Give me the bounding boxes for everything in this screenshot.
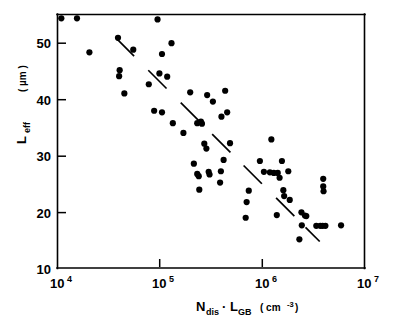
data-point xyxy=(146,81,152,87)
y-axis-title: L eff ( µm ) xyxy=(14,65,32,144)
data-point xyxy=(74,15,80,21)
y-tick-label-30: 30 xyxy=(37,149,51,164)
data-point xyxy=(280,187,286,193)
data-point xyxy=(58,15,64,21)
x-axis-title-dot: · xyxy=(222,299,226,314)
data-point xyxy=(115,35,121,41)
x-axis-title-symbol-1: N xyxy=(196,299,205,314)
data-point xyxy=(227,140,233,146)
data-point xyxy=(222,88,228,94)
trend-line-segment xyxy=(244,166,262,184)
x-tick-label-1e4: 10 4 xyxy=(50,274,72,292)
data-point xyxy=(221,157,227,163)
x-axis-title-unit-exponent: -3 xyxy=(287,300,294,309)
data-point xyxy=(203,145,209,151)
x-tick-label-1e5: 10 5 xyxy=(152,274,174,292)
data-point xyxy=(187,89,193,95)
x-tick-base-1e5: 10 xyxy=(152,276,166,291)
x-tick-exp-1e5: 5 xyxy=(169,274,174,284)
data-point xyxy=(170,120,176,126)
data-point xyxy=(159,51,165,57)
x-tick-labels: 10 4 10 5 10 6 10 7 xyxy=(50,274,379,292)
x-axis-title-unit-close: ) xyxy=(295,302,298,313)
data-point xyxy=(279,158,285,164)
data-point xyxy=(156,70,162,76)
x-axis-title-subscript-2: GB xyxy=(238,307,252,317)
data-point xyxy=(164,74,170,80)
data-point xyxy=(303,213,309,219)
data-point xyxy=(121,90,127,96)
data-point xyxy=(199,121,205,127)
x-tick-exp-1e4: 4 xyxy=(67,274,72,284)
x-axis-title-subscript-1: dis xyxy=(206,307,219,317)
x-tick-base-1e4: 10 xyxy=(50,276,64,291)
x-axis-title-unit-open: ( cm xyxy=(260,302,281,313)
y-tick-label-40: 40 xyxy=(37,93,51,108)
data-point xyxy=(246,188,252,194)
y-tick-label-10: 10 xyxy=(37,262,51,277)
data-point xyxy=(196,187,202,193)
y-axis-title-symbol: L xyxy=(14,136,29,144)
data-point xyxy=(154,16,160,22)
data-point xyxy=(261,169,267,175)
data-point xyxy=(281,193,287,199)
data-point xyxy=(117,67,123,73)
data-point xyxy=(168,40,174,46)
data-point xyxy=(204,92,210,98)
data-point xyxy=(338,222,344,228)
plot-canvas: 50 40 30 20 10 10 4 10 5 10 6 10 7 xyxy=(0,0,393,328)
x-tick-base-1e6: 10 xyxy=(255,276,269,291)
scatter-markers xyxy=(58,15,344,242)
x-tick-label-1e7: 10 7 xyxy=(357,274,379,292)
x-tick-base-1e7: 10 xyxy=(357,276,371,291)
data-point xyxy=(217,180,223,186)
data-point xyxy=(320,188,326,194)
data-point xyxy=(276,175,282,181)
axes-frame xyxy=(57,14,365,269)
data-point xyxy=(320,176,326,182)
y-axis-title-unit: ( µm ) xyxy=(17,65,28,92)
data-point xyxy=(322,223,328,229)
data-point xyxy=(274,212,280,218)
data-point xyxy=(116,73,122,79)
y-axis-ticks xyxy=(58,43,66,212)
data-point xyxy=(243,215,249,221)
data-point xyxy=(296,236,302,242)
data-point xyxy=(224,109,230,115)
data-point xyxy=(159,109,165,115)
data-point xyxy=(218,114,224,120)
trend-line-dashed xyxy=(117,39,320,242)
y-tick-label-20: 20 xyxy=(37,206,51,221)
data-point xyxy=(285,168,291,174)
y-tick-labels: 50 40 30 20 10 xyxy=(37,36,51,277)
data-point xyxy=(244,199,250,205)
data-point xyxy=(299,222,305,228)
data-point xyxy=(196,173,202,179)
y-tick-label-50: 50 xyxy=(37,36,51,51)
x-tick-label-1e6: 10 6 xyxy=(255,274,277,292)
scatter-plot-figure: 50 40 30 20 10 10 4 10 5 10 6 10 7 xyxy=(0,0,393,328)
trend-line-segment xyxy=(306,227,320,241)
data-point xyxy=(86,49,92,55)
data-point xyxy=(191,161,197,167)
data-point xyxy=(257,158,263,164)
data-point xyxy=(206,171,212,177)
x-axis-ticks xyxy=(160,259,263,267)
data-point xyxy=(210,98,216,104)
x-tick-exp-1e6: 6 xyxy=(272,274,277,284)
x-axis-title-symbol-2: L xyxy=(230,299,238,314)
data-point xyxy=(180,130,186,136)
data-point xyxy=(218,168,224,174)
trend-line-segment xyxy=(181,103,199,121)
x-axis-title: N dis · L GB ( cm -3 ) xyxy=(196,299,298,317)
data-point xyxy=(151,108,157,114)
x-tick-exp-1e7: 7 xyxy=(374,274,379,284)
data-point xyxy=(268,136,274,142)
data-point xyxy=(287,197,293,203)
data-point xyxy=(130,47,136,53)
y-axis-title-subscript: eff xyxy=(22,121,32,133)
